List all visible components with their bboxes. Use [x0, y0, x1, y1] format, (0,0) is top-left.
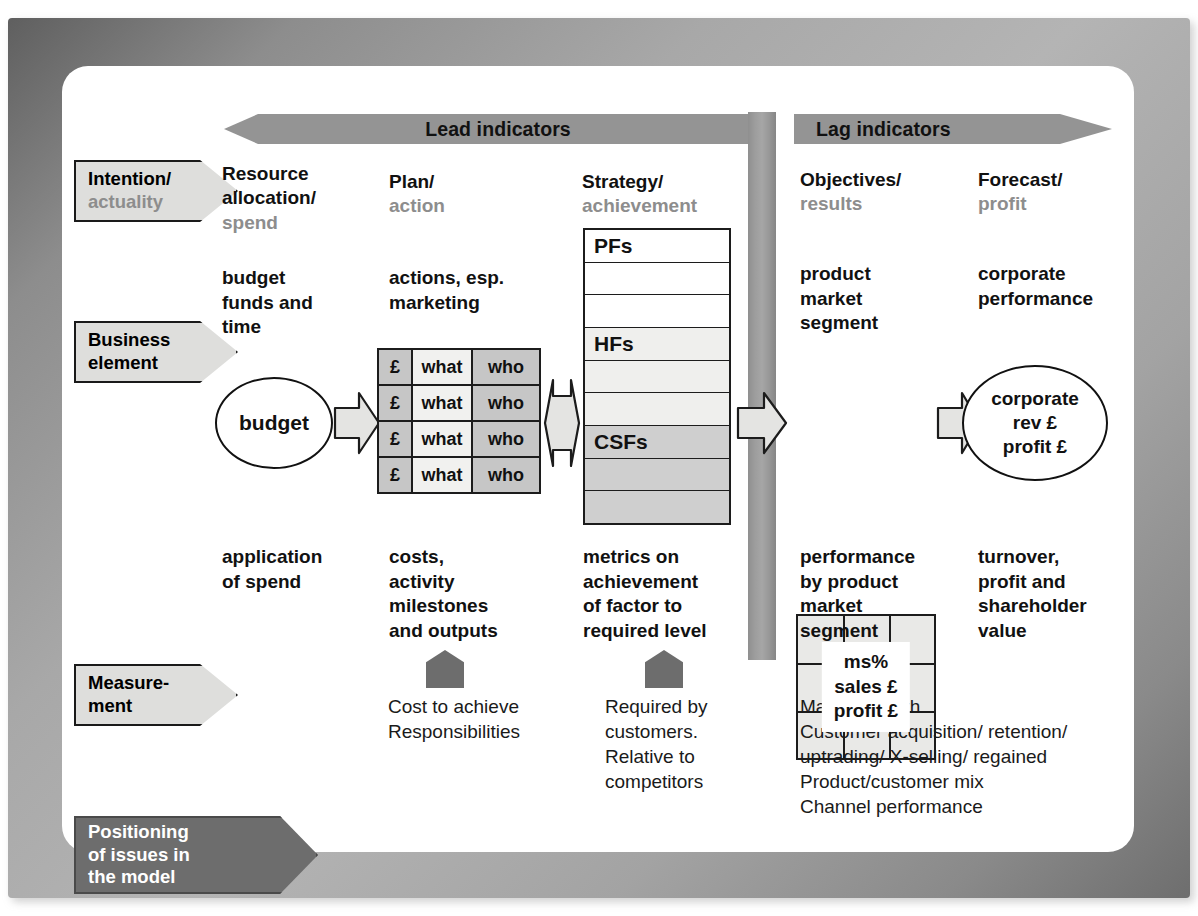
row-label-business-element: Business element: [74, 321, 238, 383]
column-heading-forecast-sub: profit: [978, 192, 1148, 216]
column-heading-resource-line2: allocation/: [222, 186, 382, 210]
cell-pound: £: [379, 458, 411, 492]
ms-line-2: sales £: [834, 675, 898, 700]
stack-row-pfs: PFs: [585, 230, 729, 263]
column-heading-plan-line1: Plan/: [389, 170, 549, 194]
table-row: £ what who: [379, 386, 539, 422]
stack-row: [585, 263, 729, 296]
cell-who: who: [473, 350, 539, 384]
corporate-line-1: corporate: [991, 387, 1079, 411]
row-label-intention-line2: actuality: [88, 191, 238, 214]
measurement-forecast: turnover, profit and shareholder value: [978, 545, 1168, 644]
cell-what: what: [411, 350, 473, 384]
row-label-positioning-line3: the model: [88, 866, 318, 889]
column-heading-objectives: Objectives/ results: [800, 168, 970, 217]
cell-who: who: [473, 422, 539, 456]
column-heading-forecast: Forecast/ profit: [978, 168, 1148, 217]
stack-row: [585, 459, 729, 492]
row-label-intention: Intention/ actuality: [74, 160, 238, 222]
lag-indicators-label: Lag indicators: [816, 118, 951, 141]
cell-pound: £: [379, 386, 411, 420]
budget-circle-label: budget: [239, 410, 309, 436]
cell-who: who: [473, 458, 539, 492]
budget-circle: budget: [215, 377, 333, 469]
cell-what: what: [411, 386, 473, 420]
row-label-positioning: Positioning of issues in the model: [74, 816, 318, 894]
column-heading-resource: Resource allocation/ spend: [222, 162, 382, 235]
arrow-budget-to-table: [333, 390, 381, 456]
column-heading-objectives-sub: results: [800, 192, 970, 216]
cell-pound: £: [379, 350, 411, 384]
corporate-line-2: rev £: [991, 411, 1079, 435]
positioning-strategy: Required by customers. Relative to compe…: [605, 694, 825, 794]
corporate-line-3: profit £: [991, 435, 1079, 459]
row-label-positioning-line1: Positioning: [88, 821, 318, 844]
row-label-positioning-line2: of issues in: [88, 844, 318, 867]
row-label-business-line2: element: [88, 352, 238, 375]
pointer-pentagon-plan-icon: [426, 650, 464, 688]
column-heading-plan: Plan/ action: [389, 170, 549, 219]
column-heading-strategy-line1: Strategy/: [582, 170, 762, 194]
column-heading-objectives-line1: Objectives/: [800, 168, 970, 192]
measurement-objectives: performance by product market segment: [800, 545, 980, 644]
table-row: £ what who: [379, 350, 539, 386]
stack-row-hfs: HFs: [585, 328, 729, 361]
stack-row: [585, 361, 729, 394]
lead-indicators-label: Lead indicators: [425, 118, 571, 141]
lag-indicators-banner: Lag indicators: [794, 114, 1112, 144]
column-heading-plan-sub: action: [389, 194, 549, 218]
measurement-plan: costs, activity milestones and outputs: [389, 545, 569, 644]
business-element-resource: budget funds and time: [222, 266, 392, 340]
column-heading-resource-line1: Resource: [222, 162, 382, 186]
row-label-measurement: Measure- ment: [74, 664, 238, 726]
stack-row: [585, 491, 729, 523]
diagram-canvas: Lead indicators Lag indicators Intention…: [0, 0, 1198, 916]
cell-pound: £: [379, 422, 411, 456]
row-label-measurement-line2: ment: [88, 695, 238, 718]
business-element-plan: actions, esp. marketing: [389, 266, 579, 315]
diagram-content: Lead indicators Lag indicators Intention…: [0, 0, 1198, 916]
corporate-circle: corporate rev £ profit £: [962, 365, 1108, 481]
row-label-measurement-line1: Measure-: [88, 672, 238, 695]
measurement-resource: application of spend: [222, 545, 392, 594]
ms-line-1: ms%: [834, 650, 898, 675]
stack-row-csfs: CSFs: [585, 426, 729, 459]
row-label-business-line1: Business: [88, 329, 238, 352]
arrow-bidirectional-plan-strategy: [541, 378, 583, 468]
table-row: £ what who: [379, 458, 539, 492]
cell-what: what: [411, 422, 473, 456]
table-row: £ what who: [379, 422, 539, 458]
positioning-plan: Cost to achieve Responsibilities: [388, 694, 618, 744]
column-heading-strategy-sub: achievement: [582, 194, 762, 218]
market-segment-values: ms% sales £ profit £: [822, 642, 910, 732]
budget-table: £ what who £ what who £ what who £ what …: [377, 348, 541, 494]
stack-row: [585, 295, 729, 328]
lead-indicators-banner: Lead indicators: [224, 114, 752, 144]
cell-who: who: [473, 386, 539, 420]
ms-line-3: profit £: [834, 699, 898, 724]
pointer-pentagon-strategy-icon: [645, 650, 683, 688]
row-label-intention-line1: Intention/: [88, 168, 238, 191]
column-heading-resource-sub: spend: [222, 211, 382, 235]
column-heading-strategy: Strategy/ achievement: [582, 170, 762, 219]
column-heading-forecast-line1: Forecast/: [978, 168, 1148, 192]
arrow-strategy-to-objectives: [736, 390, 788, 456]
measurement-strategy: metrics on achievement of factor to requ…: [583, 545, 773, 644]
factor-stack: PFs HFs CSFs: [583, 228, 731, 525]
cell-what: what: [411, 458, 473, 492]
business-element-forecast: corporate performance: [978, 262, 1168, 311]
business-element-objectives: product market segment: [800, 262, 970, 336]
stack-row: [585, 393, 729, 426]
